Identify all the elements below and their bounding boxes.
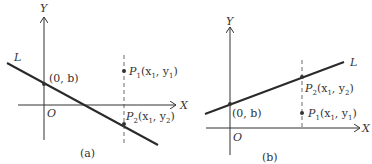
y-axis-label: Y <box>226 15 235 28</box>
point-p1 <box>122 69 126 73</box>
p2-label: P2(x1, y2) <box>304 82 354 97</box>
diagram-canvas: Y X O L (0, b) P1(x1, y1) P2(x1, y2) (a)… <box>0 0 372 164</box>
x-axis-label: X <box>361 122 371 135</box>
intercept-point <box>228 102 232 106</box>
p1-label: P1(x1, y1) <box>128 65 178 80</box>
intercept-label: (0, b) <box>49 72 79 85</box>
caption-b: (b) <box>262 151 278 164</box>
origin-label: O <box>47 107 56 120</box>
point-p2 <box>300 75 304 79</box>
x-axis-label: X <box>179 99 189 112</box>
p2-label: P2(x1, y2) <box>125 110 175 125</box>
panel-a: Y X O L (0, b) P1(x1, y1) P2(x1, y2) (a) <box>7 2 189 160</box>
y-axis-label: Y <box>40 2 49 15</box>
intercept-label: (0, b) <box>232 107 262 120</box>
line-label: L <box>13 51 21 64</box>
caption-a: (a) <box>80 147 95 160</box>
panel-b: Y X O L (0, b) P2(x1, y2) P1(x1, y1) (b) <box>205 15 371 164</box>
line-label: L <box>349 56 357 69</box>
origin-label: O <box>233 131 242 144</box>
p1-label: P1(x1, y1) <box>307 107 357 122</box>
intercept-point <box>42 82 46 86</box>
point-p1 <box>300 111 304 115</box>
